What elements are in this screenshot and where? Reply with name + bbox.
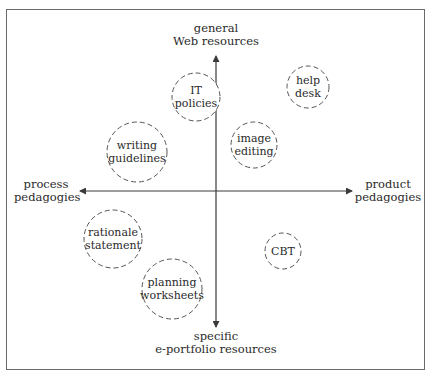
- node-image-editing: image editing: [231, 122, 277, 168]
- node-label: image editing: [234, 132, 273, 158]
- node-label: IT policies: [175, 84, 218, 110]
- node-cbt: CBT: [265, 233, 301, 269]
- axis-label-right: product pedagogies: [354, 178, 422, 204]
- node-it-policies: IT policies: [172, 73, 220, 121]
- node-label: CBT: [271, 245, 295, 258]
- node-rationale-statement: rationale statement: [84, 210, 142, 268]
- node-help-desk: help desk: [287, 66, 329, 108]
- axis-label-bottom-line2: e-portfolio resources: [146, 343, 286, 356]
- axis-label-top-line2: Web resources: [156, 35, 276, 48]
- node-label: planning worksheets: [140, 276, 204, 302]
- axis-label-left: process pedagogies: [14, 178, 78, 204]
- axis-label-bottom: specific e-portfolio resources: [146, 330, 286, 356]
- node-label: help desk: [295, 74, 321, 100]
- axis-label-top: general Web resources: [156, 22, 276, 48]
- axis-label-left-line2: pedagogies: [14, 191, 78, 204]
- node-planning-worksheets: planning worksheets: [142, 259, 202, 319]
- axis-label-right-line2: pedagogies: [354, 191, 422, 204]
- node-writing-guidelines: writing guidelines: [107, 122, 167, 182]
- node-label: rationale statement: [85, 226, 141, 252]
- node-label: writing guidelines: [108, 139, 165, 165]
